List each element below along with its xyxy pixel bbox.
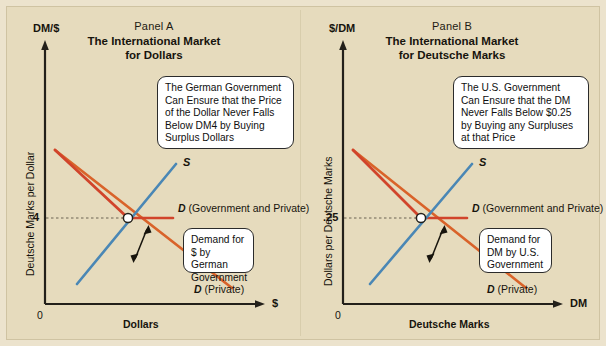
panel-a: Panel A The International Market for Dol… bbox=[6, 6, 302, 340]
x-axis-arrowhead-a bbox=[255, 300, 265, 308]
panel-b-title: The International Market for Deutsche Ma… bbox=[304, 34, 600, 62]
panel-b: Panel B The International Market for Deu… bbox=[304, 6, 600, 340]
panel-a-demand-private-label: D (Private) bbox=[194, 283, 244, 295]
panel-b-title-line1: The International Market bbox=[304, 34, 600, 48]
demand-government-upper-a bbox=[55, 150, 128, 218]
panel-b-y-axis-unit: $/DM bbox=[329, 22, 355, 34]
panel-a-y-tick-4: 4 bbox=[33, 211, 39, 223]
figure-container: Panel A The International Market for Dol… bbox=[0, 0, 606, 346]
panel-b-x-axis-label: Deutsche Marks bbox=[409, 318, 490, 330]
panel-a-callout-arrow: Demand for $ by German Government bbox=[183, 228, 254, 273]
panel-b-demand-private-label: D (Private) bbox=[487, 283, 537, 295]
panel-b-origin-label: 0 bbox=[335, 309, 341, 321]
panel-b-demand-gov-italic: D bbox=[472, 202, 480, 214]
panel-a-demand-gov-rest: (Government and Private) bbox=[186, 202, 310, 214]
surplus-arrow-a bbox=[131, 225, 152, 263]
panel-a-callout-main: The German Government Can Ensure that th… bbox=[157, 76, 294, 149]
panel-b-demand-priv-rest: (Private) bbox=[495, 283, 538, 295]
panel-a-x-axis-unit: $ bbox=[272, 297, 278, 309]
demand-government-upper-b bbox=[353, 150, 421, 218]
panel-b-demand-gov-rest: (Government and Private) bbox=[480, 202, 604, 214]
panel-b-supply-label: S bbox=[479, 156, 486, 168]
panel-a-demand-government-label: D (Government and Private) bbox=[178, 202, 309, 214]
equilibrium-point-b bbox=[416, 213, 425, 222]
panel-b-demand-government-label: D (Government and Private) bbox=[472, 202, 603, 214]
x-axis-arrowhead-b bbox=[553, 300, 563, 308]
panel-a-demand-priv-italic: D bbox=[194, 283, 202, 295]
panel-b-x-axis-unit: DM bbox=[570, 297, 587, 309]
panel-a-origin-label: 0 bbox=[37, 309, 43, 321]
supply-curve-a bbox=[77, 164, 176, 284]
panel-a-demand-priv-rest: (Private) bbox=[202, 283, 245, 295]
panel-a-title-line1: The International Market bbox=[6, 34, 302, 48]
surplus-arrow-b bbox=[427, 225, 448, 263]
panel-a-supply-label: S bbox=[183, 156, 190, 168]
equilibrium-point-a bbox=[123, 213, 132, 222]
panel-b-callout-arrow: Demand for DM by U.S. Government bbox=[479, 228, 552, 273]
panel-a-y-axis-unit: DM/$ bbox=[33, 22, 59, 34]
panel-b-title-line2: for Deutsche Marks bbox=[304, 48, 600, 62]
panel-a-title: The International Market for Dollars bbox=[6, 34, 302, 62]
panel-b-callout-main: The U.S. Government Can Ensure that the … bbox=[453, 76, 589, 149]
panel-a-x-axis-label: Dollars bbox=[123, 318, 159, 330]
panel-a-title-line2: for Dollars bbox=[6, 48, 302, 62]
panel-b-demand-priv-italic: D bbox=[487, 283, 495, 295]
panel-a-demand-gov-italic: D bbox=[178, 202, 186, 214]
panel-b-y-tick-025: .25 bbox=[323, 211, 338, 223]
